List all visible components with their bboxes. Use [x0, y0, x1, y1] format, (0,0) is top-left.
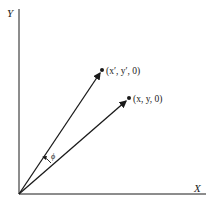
angle-arc — [43, 157, 51, 163]
diagram-svg: Y X (x′, y′, 0) (x, y, 0) ϕ — [0, 0, 211, 203]
x-axis-label: X — [193, 182, 202, 194]
y-axis-label: Y — [7, 7, 15, 19]
rotation-diagram: Y X (x′, y′, 0) (x, y, 0) ϕ — [0, 0, 211, 203]
point-rotated-label: (x′, y′, 0) — [106, 66, 140, 77]
angle-phi-label: ϕ — [51, 152, 55, 161]
point-original-dot — [127, 96, 131, 100]
point-original-label: (x, y, 0) — [133, 94, 162, 105]
point-rotated-dot — [100, 68, 104, 72]
